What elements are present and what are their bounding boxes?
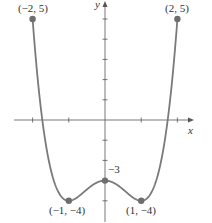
- point-label-right-min: (1, −4): [126, 204, 156, 216]
- point-label-center: −3: [108, 163, 120, 175]
- data-point: [102, 177, 108, 183]
- x-axis-label: x: [188, 124, 193, 136]
- point-label-left-min: (−1, −4): [49, 204, 85, 216]
- data-point: [174, 16, 180, 22]
- point-label-right-top: (2, 5): [165, 2, 189, 14]
- plot-area: [0, 0, 212, 223]
- y-axis-label: y: [95, 0, 100, 10]
- function-graph: y x (−2, 5) (2, 5) (−1, −4) (1, −4) −3: [0, 0, 212, 223]
- data-point: [29, 16, 35, 22]
- point-label-left-top: (−2, 5): [18, 2, 48, 14]
